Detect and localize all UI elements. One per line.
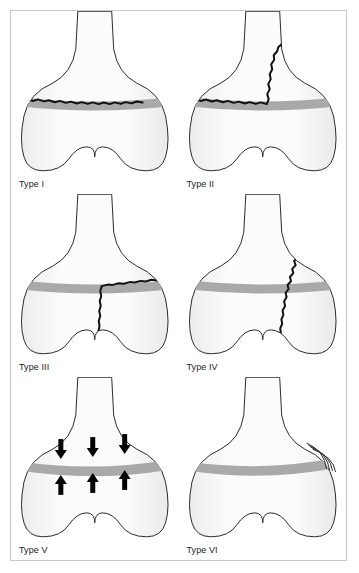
panel-grid: Type I Type II xyxy=(11,11,346,560)
panel-label-type-5: Type V xyxy=(19,546,48,555)
panel-label-type-4: Type IV xyxy=(187,363,218,372)
bone-outline-shape xyxy=(21,377,168,537)
bone-illustration-type-2 xyxy=(179,11,347,194)
panel-type-3: Type III xyxy=(11,194,179,377)
bone-outline-shape xyxy=(189,377,336,537)
bone-illustration-type-4 xyxy=(179,194,347,377)
panel-label-type-3: Type III xyxy=(19,363,49,372)
panel-label-type-2: Type II xyxy=(187,180,215,189)
figure-frame: Type I Type II xyxy=(10,10,347,561)
panel-type-5: Type V xyxy=(11,377,179,560)
bone-outline-shape xyxy=(21,194,168,354)
panel-type-4: Type IV xyxy=(179,194,347,377)
bone-illustration-type-3 xyxy=(11,194,179,377)
panel-label-type-6: Type VI xyxy=(187,546,218,555)
bone-outline-shape xyxy=(189,11,336,171)
panel-type-6: Type VI xyxy=(179,377,347,560)
bone-illustration-type-6 xyxy=(179,377,347,560)
panel-type-1: Type I xyxy=(11,11,179,194)
panel-label-type-1: Type I xyxy=(19,180,44,189)
bone-outline-shape xyxy=(189,194,336,354)
panel-type-2: Type II xyxy=(179,11,347,194)
bone-illustration-type-5 xyxy=(11,377,179,560)
bone-outline-shape xyxy=(21,11,168,171)
bone-illustration-type-1 xyxy=(11,11,179,194)
